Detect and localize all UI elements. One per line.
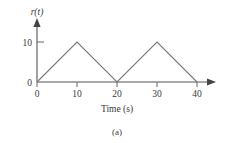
x-tick-label-10: 10	[72, 89, 82, 99]
data-series-r-of-t	[37, 42, 197, 82]
y-tick-label-0: 0	[27, 78, 32, 88]
figure-container: 10 0 0 10 20 30 40 r(t) Time (s) (a)	[0, 0, 232, 143]
x-axis-label: Time (s)	[101, 104, 133, 115]
triangular-wave-chart: 10 0 0 10 20 30 40 r(t) Time (s) (a)	[0, 0, 232, 143]
x-axis-arrow-icon	[207, 78, 216, 85]
y-axis-arrow-icon	[33, 18, 40, 27]
x-tick-label-30: 30	[152, 89, 162, 99]
x-tick-label-0: 0	[35, 89, 40, 99]
figure-caption: (a)	[112, 127, 122, 137]
y-tick-label-10: 10	[23, 38, 33, 48]
x-tick-label-40: 40	[192, 89, 202, 99]
y-axis-label: r(t)	[31, 7, 44, 18]
x-tick-label-20: 20	[112, 89, 122, 99]
